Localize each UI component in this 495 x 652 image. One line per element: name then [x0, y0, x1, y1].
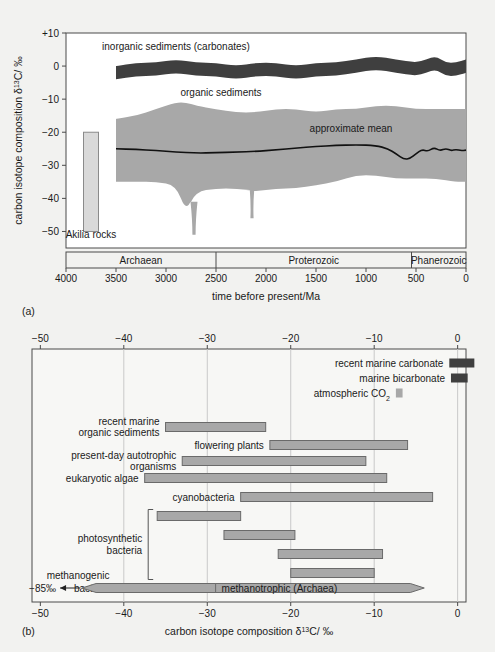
panel-b-x-axis-label: carbon isotope composition δ13C/ ‰: [165, 625, 334, 637]
svg-text:carbon isotope composition δ13: carbon isotope composition δ13C/ ‰: [12, 56, 24, 225]
legend-label-marine-bicarbonate: marine bicarbonate: [359, 373, 445, 384]
bar-label-recent-marine-organic-sediments: recent marine: [98, 416, 160, 427]
bar-label-present-day-autotrophic-organisms: organisms: [130, 461, 176, 472]
panel-a-x-tick-label: 1500: [305, 273, 328, 284]
legend-label-recent-marine-carbonate: recent marine carbonate: [335, 358, 444, 369]
panel-a-y-axis-label: carbon isotope composition δ13C/ ‰: [12, 56, 24, 225]
panel-a-x-tick-label: 3000: [155, 273, 178, 284]
panel-a-y-tick-label: 0: [53, 61, 59, 72]
panel-a-x-tick-label: 4000: [55, 273, 78, 284]
panel-b-top-tick-label: −30: [199, 333, 216, 344]
panel-b-top-tick-label: 0: [455, 333, 461, 344]
akilia-rocks-label: Akilia rocks: [66, 229, 117, 240]
panel-b-chart: recent marine carbonatemarine bicarbonat…: [0, 330, 495, 652]
panel-b-top-tick-label: −10: [366, 333, 383, 344]
inorganic-sediments-label: inorganic sediments (carbonates): [102, 41, 250, 52]
panel-a-y-tick-label: −20: [42, 127, 59, 138]
organic-sediments-label: organic sediments: [180, 87, 261, 98]
bar-photosynthetic-bacteria-1: [157, 512, 240, 521]
bar-photosynthetic-bacteria-4: [291, 569, 374, 578]
panel-b-id: (b): [22, 625, 35, 637]
bar-label-recent-marine-organic-sediments: organic sediments: [78, 427, 159, 438]
panel-b-bottom-tick-label: −10: [366, 608, 383, 619]
arrow-bar-methanotrophic-archaea: [82, 584, 216, 593]
panel-b-bottom-tick-label: −30: [199, 608, 216, 619]
arrow-bar-label-methanogenic-bacteria: methanogenic: [47, 570, 110, 581]
bar-recent-marine-organic-sediments: [166, 423, 266, 432]
panel-a-x-tick-label: 1000: [355, 273, 378, 284]
panel-a-y-tick-label: −10: [42, 94, 59, 105]
bar-present-day-autotrophic-organisms: [182, 457, 366, 466]
panel-b-bottom-tick-label: −20: [282, 608, 299, 619]
arrow-bar-label-methanotrophic-archaea: methanotrophic (Archaea): [222, 583, 338, 594]
off-scale-value-label: −85‰: [29, 583, 56, 594]
panel-a-x-tick-label: 0: [463, 273, 469, 284]
panel-b-bottom-tick-label: −40: [115, 608, 132, 619]
panel-b-top-tick-label: −40: [115, 333, 132, 344]
bar-eukaryotic-algae: [145, 474, 387, 483]
panel-a-y-tick-label: −30: [42, 160, 59, 171]
panel-a-y-tick-label: −50: [42, 226, 59, 237]
panel-a-id: (a): [22, 305, 35, 317]
akilia-rocks-bar: [84, 132, 99, 231]
photosynthetic-bacteria-label: photosynthetic: [78, 533, 143, 544]
panel-a-x-tick-label: 2000: [255, 273, 278, 284]
panel-b-top-tick-label: −50: [32, 333, 49, 344]
legend-swatch-recent-marine-carbonate: [449, 359, 474, 368]
bar-cyanobacteria: [241, 493, 433, 502]
bar-flowering-plants: [270, 441, 408, 450]
legend-swatch-marine-bicarbonate: [451, 374, 468, 383]
panel-a-x-tick-label: 3500: [105, 273, 128, 284]
bar-label-flowering-plants: flowering plants: [194, 440, 263, 451]
bar-label-cyanobacteria: cyanobacteria: [172, 492, 235, 503]
era-label-archaean: Archaean: [120, 255, 163, 266]
bar-photosynthetic-bacteria-3: [278, 550, 382, 559]
panel-b-top-tick-label: −20: [282, 333, 299, 344]
panel-a-chart: +100−10−20−30−40−50400035003000250020001…: [0, 0, 495, 330]
panel-b-bottom-tick-label: −50: [32, 608, 49, 619]
era-label-phanerozoic: Phanerozoic: [411, 255, 467, 266]
figure-container: +100−10−20−30−40−50400035003000250020001…: [0, 0, 495, 652]
photosynthetic-bacteria-label: bacteria: [107, 545, 143, 556]
legend-swatch-atmospheric-co2: [396, 389, 403, 398]
bar-label-present-day-autotrophic-organisms: present-day autotrophic: [71, 450, 176, 461]
bar-photosynthetic-bacteria-2: [224, 531, 295, 540]
panel-a-y-tick-label: −40: [42, 193, 59, 204]
panel-b-bottom-tick-label: 0: [455, 608, 461, 619]
bar-label-eukaryotic-algae: eukaryotic algae: [66, 473, 139, 484]
era-label-proterozoic: Proterozoic: [288, 255, 339, 266]
panel-a-x-axis-label: time before present/Ma: [212, 290, 320, 302]
panel-a-x-tick-label: 2500: [205, 273, 228, 284]
approximate-mean-label: approximate mean: [310, 123, 393, 134]
panel-a-y-tick-label: +10: [42, 28, 59, 39]
panel-a-x-tick-label: 500: [408, 273, 425, 284]
